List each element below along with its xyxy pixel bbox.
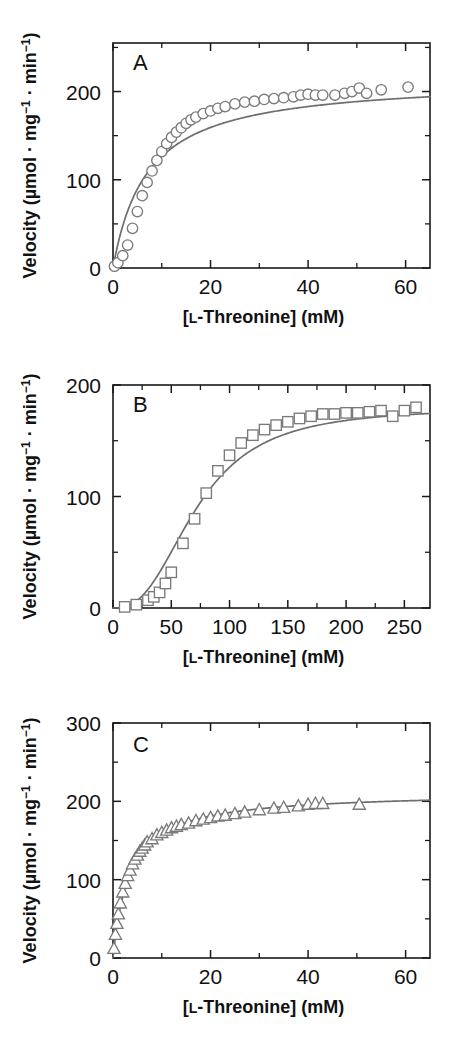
x-tick-label: 40 xyxy=(296,275,319,298)
x-axis-title-main: -Threonine] (mM) xyxy=(197,307,344,327)
data-point-square xyxy=(166,567,176,577)
data-point-circle xyxy=(239,97,249,107)
data-point-circle xyxy=(330,90,340,100)
y-axis-title: Velocity (µmol · mg−1 · min−1) xyxy=(19,33,40,279)
data-point-circle xyxy=(220,101,230,111)
data-point-square xyxy=(353,408,363,418)
data-point-circle xyxy=(318,90,328,100)
data-points xyxy=(108,797,365,953)
y-tick-label: 200 xyxy=(66,374,101,397)
data-point-triangle xyxy=(109,928,121,939)
panel-letter: B xyxy=(133,392,148,417)
data-point-circle xyxy=(137,190,147,200)
data-point-square xyxy=(189,514,199,524)
x-axis-title: [L-Threonine] (mM) xyxy=(183,307,345,327)
data-point-square xyxy=(271,420,281,430)
x-tick-label: 200 xyxy=(329,615,364,638)
panel-c-svg: 02040600100200300C[L-Threonine] (mM)Velo… xyxy=(0,680,458,1038)
x-tick-label: 60 xyxy=(394,965,417,988)
data-point-triangle xyxy=(108,942,120,953)
fit-curve xyxy=(113,800,430,958)
panel-a-plot: 02040600100200A[L-Threonine] (mM)Velocit… xyxy=(0,0,458,350)
x-tick-label: 20 xyxy=(199,965,222,988)
y-tick-label: 0 xyxy=(89,947,101,970)
y-axis-title-part3: ) xyxy=(20,33,40,39)
data-point-circle xyxy=(249,96,259,106)
y-tick-label: 0 xyxy=(89,257,101,280)
y-tick-label: 200 xyxy=(66,790,101,813)
y-tick-label: 100 xyxy=(66,169,101,192)
data-point-square xyxy=(119,602,129,612)
data-point-triangle xyxy=(112,908,124,919)
y-axis-title-sup2: −1 xyxy=(19,38,33,52)
panel-a-svg: 02040600100200A[L-Threonine] (mM)Velocit… xyxy=(0,0,458,350)
y-axis-title-sup2: −1 xyxy=(19,723,33,737)
data-point-square xyxy=(411,402,421,412)
x-tick-label: 0 xyxy=(107,965,119,988)
data-points xyxy=(109,82,413,272)
panel-b-svg: 0501001502002500100200B[L-Threonine] (mM… xyxy=(0,346,458,686)
y-tick-label: 300 xyxy=(66,712,101,735)
x-tick-label: 250 xyxy=(387,615,422,638)
x-tick-label: 0 xyxy=(107,275,119,298)
x-tick-label: 20 xyxy=(199,275,222,298)
y-axis-title-part2: · min xyxy=(20,737,40,785)
y-axis-title-part3: ) xyxy=(20,374,40,380)
data-point-square xyxy=(399,405,409,415)
x-axis-title-main: -Threonine] (mM) xyxy=(197,647,344,667)
data-point-circle xyxy=(127,223,137,233)
data-point-circle xyxy=(142,177,152,187)
data-point-square xyxy=(248,430,258,440)
data-point-circle xyxy=(269,93,279,103)
y-tick-label: 200 xyxy=(66,81,101,104)
data-point-square xyxy=(341,408,351,418)
y-tick-label: 0 xyxy=(89,597,101,620)
data-point-circle xyxy=(403,82,413,92)
fit-curve xyxy=(113,97,430,268)
panel-c-plot: 02040600100200300C[L-Threonine] (mM)Velo… xyxy=(0,680,458,1038)
y-axis-title-part1: Velocity (µmol · mg xyxy=(20,455,40,619)
data-point-square xyxy=(388,411,398,421)
x-tick-label: 40 xyxy=(296,965,319,988)
x-tick-label: 150 xyxy=(270,615,305,638)
y-tick-label: 100 xyxy=(66,486,101,509)
y-tick-label: 100 xyxy=(66,869,101,892)
data-point-square xyxy=(201,488,211,498)
data-point-circle xyxy=(278,93,288,103)
data-point-square xyxy=(294,413,304,423)
data-point-square xyxy=(224,450,234,460)
x-tick-label: 50 xyxy=(160,615,183,638)
panel-c: 02040600100200300C[L-Threonine] (mM)Velo… xyxy=(0,680,458,1038)
data-point-circle xyxy=(259,94,269,104)
data-point-square xyxy=(160,578,170,588)
data-point-square xyxy=(178,538,188,548)
y-axis-title-sup1: −1 xyxy=(19,441,33,455)
data-points xyxy=(119,402,421,612)
data-point-square xyxy=(236,438,246,448)
panel-a: 02040600100200A[L-Threonine] (mM)Velocit… xyxy=(0,0,458,350)
data-point-circle xyxy=(147,166,157,176)
y-axis-title-part3: ) xyxy=(20,718,40,724)
x-axis-title: [L-Threonine] (mM) xyxy=(183,997,345,1017)
data-point-square xyxy=(376,405,386,415)
y-axis-title-part2: · min xyxy=(20,393,40,441)
x-tick-label: 60 xyxy=(394,275,417,298)
data-point-triangle xyxy=(353,798,365,809)
y-axis-title-part2: · min xyxy=(20,52,40,100)
data-point-square xyxy=(364,407,374,417)
data-point-circle xyxy=(230,99,240,109)
data-point-square xyxy=(131,599,141,609)
x-axis-title-main: -Threonine] (mM) xyxy=(197,997,344,1017)
plot-frame xyxy=(113,385,430,608)
y-axis-title: Velocity (µmol · mg−1 · min−1) xyxy=(19,374,40,620)
data-point-circle xyxy=(122,240,132,250)
panel-b-plot: 0501001502002500100200B[L-Threonine] (mM… xyxy=(0,346,458,686)
panel-letter: A xyxy=(133,50,148,75)
data-point-circle xyxy=(361,88,371,98)
y-axis-title-part1: Velocity (µmol · mg xyxy=(20,799,40,963)
x-tick-label: 100 xyxy=(212,615,247,638)
panel-letter: C xyxy=(133,732,149,757)
data-point-square xyxy=(259,424,269,434)
y-axis-title-sup2: −1 xyxy=(19,379,33,393)
data-point-square xyxy=(329,409,339,419)
